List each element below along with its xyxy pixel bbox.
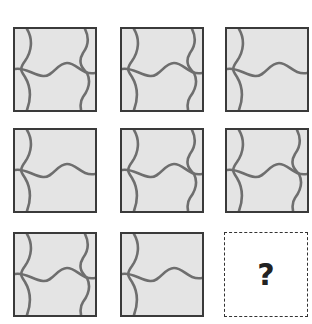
answer-cell[interactable]: ? (224, 232, 308, 317)
tile-r1c3[interactable] (225, 27, 309, 112)
tile-r2c3[interactable] (225, 128, 309, 213)
tile-r2c1[interactable] (13, 128, 97, 213)
tile-r2c2[interactable] (120, 128, 204, 213)
curve-pattern-icon (227, 29, 307, 110)
curve-pattern-icon (122, 29, 202, 110)
tile-r3c1[interactable] (13, 232, 97, 317)
curve-pattern-icon (15, 234, 95, 315)
curve-pattern-icon (122, 234, 202, 315)
curve-pattern-icon (15, 130, 95, 211)
curve-pattern-icon (122, 130, 202, 211)
question-mark-label: ? (257, 257, 274, 292)
tile-r1c1[interactable] (13, 27, 97, 112)
tile-r3c2[interactable] (120, 232, 204, 317)
tile-r1c2[interactable] (120, 27, 204, 112)
curve-pattern-icon (15, 29, 95, 110)
curve-pattern-icon (227, 130, 307, 211)
